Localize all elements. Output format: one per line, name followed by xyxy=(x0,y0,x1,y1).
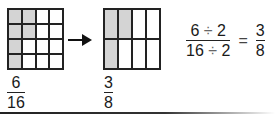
grid-cell xyxy=(36,39,50,54)
grid-cell-shaded xyxy=(104,39,118,69)
grid-cell xyxy=(146,9,160,39)
equals-sign: = xyxy=(238,32,247,50)
fraction-six-sixteenths: 6 16 xyxy=(7,74,25,111)
grid-sixteenths xyxy=(7,8,64,70)
denominator: 8 xyxy=(256,42,265,59)
grid-cell xyxy=(118,39,132,69)
grid-cell-shaded xyxy=(8,39,22,54)
grid-cell xyxy=(22,39,36,54)
fraction-bar xyxy=(186,40,230,41)
grid-cell xyxy=(49,24,63,39)
arrow-right-icon xyxy=(68,33,92,47)
grid-cell xyxy=(49,39,63,54)
grid-cell-shaded xyxy=(8,24,22,39)
numerator-expression: 6 ÷ 2 xyxy=(190,22,226,39)
grid-cell xyxy=(132,9,146,39)
numerator: 3 xyxy=(256,22,265,39)
grid-cell xyxy=(36,54,50,69)
result-fraction: 3 8 xyxy=(256,22,265,59)
denominator: 16 xyxy=(186,42,204,59)
grid-eighths xyxy=(103,8,161,70)
fraction-bar xyxy=(7,92,25,93)
grid-cell xyxy=(132,39,146,69)
divide-sign: ÷ xyxy=(208,42,217,59)
denominator-expression: 16 ÷ 2 xyxy=(186,42,230,59)
grid-cell-shaded xyxy=(22,9,36,24)
denominator: 16 xyxy=(7,94,25,111)
numerator: 6 xyxy=(190,22,199,39)
grid-cell xyxy=(49,9,63,24)
divisor: 2 xyxy=(221,42,230,59)
division-fraction: 6 ÷ 2 16 ÷ 2 xyxy=(186,22,230,59)
divisor: 2 xyxy=(217,22,226,39)
fraction-bar xyxy=(256,40,265,41)
grid-cell xyxy=(49,54,63,69)
simplification-equation: 6 ÷ 2 16 ÷ 2 = 3 8 xyxy=(186,22,265,59)
grid-cell-shaded xyxy=(118,9,132,39)
denominator: 8 xyxy=(104,94,113,111)
grid-cell xyxy=(36,24,50,39)
grid-cell-shaded xyxy=(22,24,36,39)
grid-cell xyxy=(22,54,36,69)
grid-cell-shaded xyxy=(104,9,118,39)
fraction-three-eighths: 3 8 xyxy=(104,74,113,111)
fraction-bar xyxy=(104,92,113,93)
grid-cell xyxy=(36,9,50,24)
grid-cell xyxy=(146,39,160,69)
numerator: 3 xyxy=(104,74,113,91)
divider-rule xyxy=(0,112,275,114)
numerator: 6 xyxy=(11,74,20,91)
grid-cell-shaded xyxy=(8,9,22,24)
divide-sign: ÷ xyxy=(204,22,213,39)
grid-cell-shaded xyxy=(8,54,22,69)
